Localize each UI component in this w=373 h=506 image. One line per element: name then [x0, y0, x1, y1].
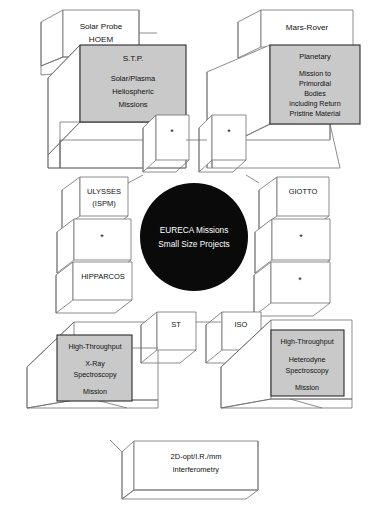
planetary-label-line2: Mission to — [299, 70, 331, 78]
ulysses-label-line2: (ISPM) — [92, 199, 116, 208]
st-label: ST — [171, 320, 181, 329]
interferometry-label-line1: 2D-opt/I.R./mm — [171, 452, 222, 461]
hipparcos-label: HIPPARCOS — [81, 272, 125, 281]
placeholder-marker: * — [298, 275, 302, 285]
core-label-line2: Small Size Projects — [158, 239, 229, 249]
planetary-label-line6: Pristine Material — [290, 110, 341, 118]
planetary-label-line5: including Return — [289, 100, 340, 108]
placeholder-marker: * — [227, 127, 231, 137]
core-disc: EURECA Missions Small Size Projects — [140, 183, 248, 291]
heterodyne-label-line1: High-Throughput — [280, 338, 333, 346]
planetary-label-line3: Primordial — [299, 80, 331, 88]
heterodyne-label-line3: Spectroscopy — [286, 367, 329, 375]
block-placeholder-right-low[interactable]: * — [254, 262, 330, 316]
block-xray-spectroscopy[interactable]: High-Throughput X-Ray Spectroscopy Missi… — [27, 322, 158, 408]
eureca-missions-diagram: Solar Probe HOEM S.T.P. Solar/Plasma Hel… — [0, 0, 373, 506]
block-interferometry[interactable]: 2D-opt/I.R./mm interferometry — [122, 441, 258, 499]
placeholder-marker: * — [170, 127, 174, 137]
stp-label-line4: Missions — [118, 100, 147, 109]
xray-label-line3: Spectroscopy — [74, 371, 117, 379]
xray-label-line4: Mission — [83, 388, 107, 396]
block-st[interactable]: ST — [141, 312, 196, 363]
placeholder-marker: * — [100, 232, 104, 242]
block-placeholder-top-left[interactable]: * — [143, 115, 189, 172]
stp-label-line3: Heliospheric — [112, 87, 154, 96]
xray-label-line1: High-Throughput — [68, 343, 121, 351]
xray-label-line2: X-Ray — [85, 360, 105, 368]
block-placeholder-top-right[interactable]: * — [199, 115, 246, 172]
heterodyne-label-line4: Mission — [295, 384, 319, 392]
planetary-label-line4: Bodies — [304, 90, 326, 98]
stp-label-line2: Solar/Plasma — [111, 74, 156, 83]
iso-label: ISO — [235, 320, 248, 329]
solar-probe-label-line1: Solar Probe — [80, 22, 123, 31]
core-label-line1: EURECA Missions — [160, 225, 229, 235]
giotto-label: GIOTTO — [289, 187, 318, 196]
ulysses-label-line1: ULYSSES — [87, 187, 121, 196]
block-hipparcos[interactable]: HIPPARCOS — [56, 262, 132, 313]
stp-label-line1: S.T.P. — [123, 54, 144, 63]
solar-probe-label-line2: HOEM — [89, 35, 114, 44]
diagram-canvas: Solar Probe HOEM S.T.P. Solar/Plasma Hel… — [0, 0, 373, 506]
interferometry-label-line2: interferometry — [173, 465, 220, 474]
planetary-label-line1: Planetary — [299, 52, 331, 61]
heterodyne-label-line2: Heterodyne — [289, 356, 326, 364]
placeholder-marker: * — [299, 232, 303, 242]
mars-rover-label: Mars-Rover — [286, 23, 329, 32]
